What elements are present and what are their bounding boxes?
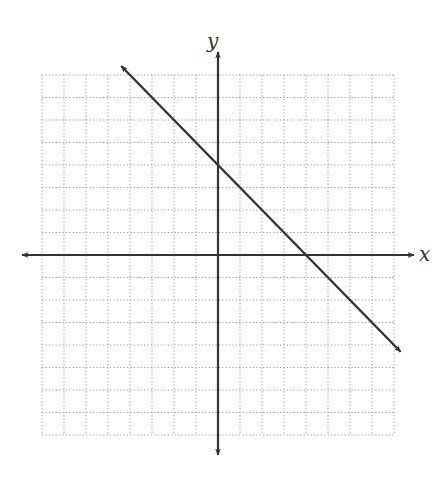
plot-svg: x y: [0, 0, 446, 479]
data-series: [121, 66, 400, 352]
axes: [22, 52, 414, 455]
coordinate-plane-chart: x y: [0, 0, 446, 479]
linear-function-line: [121, 66, 400, 352]
y-axis-label: y: [206, 29, 219, 53]
x-axis-label: x: [419, 242, 430, 266]
